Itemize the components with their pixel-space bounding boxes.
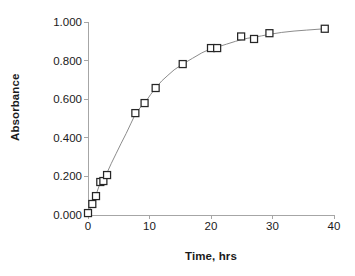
data-point-marker [214,45,221,52]
data-point-marker [89,201,96,208]
data-point-marker [141,100,148,107]
fit-curve [88,29,325,213]
x-axis-tick-label: 30 [253,220,293,233]
data-point-marker [132,110,139,117]
data-point-markers [85,25,329,216]
data-point-marker [251,35,258,42]
y-axis-ticks [84,22,88,215]
data-point-marker [152,85,159,92]
x-axis-tick-label: 40 [314,220,354,233]
x-axis-tick-label: 20 [191,220,231,233]
data-point-marker [321,25,328,32]
data-point-marker [266,30,273,37]
x-axis-tick-label: 10 [130,220,170,233]
plot-area [0,0,355,276]
x-axis-ticks [88,215,334,219]
data-point-marker [104,172,111,179]
data-point-marker [238,33,245,40]
data-point-marker [85,210,92,217]
x-axis-title: Time, hrs [88,250,334,262]
x-axis-tick-label: 0 [68,220,108,233]
data-point-marker [93,193,100,200]
absorbance-vs-time-chart: Absorbance 0.0000.2000.4000.6000.8001.00… [0,0,355,276]
data-point-marker [179,61,186,68]
